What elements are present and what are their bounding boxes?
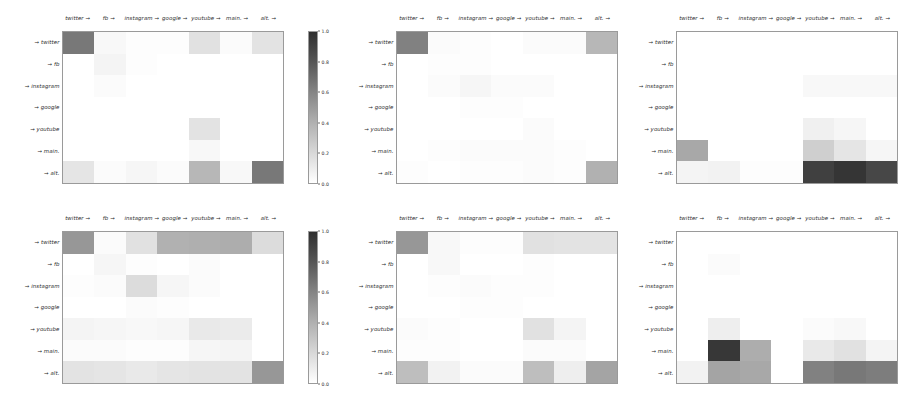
column-label-3: google → <box>159 14 190 23</box>
heatmap-cell <box>157 254 188 276</box>
heatmap-cell <box>771 54 802 76</box>
heatmap-cell <box>834 361 865 383</box>
heatmap-cell <box>523 75 554 97</box>
column-label-5: main. → <box>556 14 587 23</box>
heatmap-cell <box>523 32 554 54</box>
heatmap-cell <box>126 54 157 76</box>
heatmap-cell <box>586 318 617 340</box>
heatmap-cell <box>126 340 157 362</box>
heatmap-cell <box>771 232 802 254</box>
row-label-5: → main. <box>6 140 62 162</box>
heatmap-cell <box>460 318 491 340</box>
heatmap-cell <box>491 75 522 97</box>
heatmap-cell <box>428 318 459 340</box>
column-label-2: instagram → <box>124 14 159 23</box>
heatmap-cell <box>771 118 802 140</box>
heatmap-cell <box>157 97 188 119</box>
heatmap-cell <box>771 254 802 276</box>
column-axis-labels: twitter →fb →instagram →google →youtube … <box>62 14 284 23</box>
row-label-0: → twitter <box>340 231 396 253</box>
heatmap-cell <box>63 75 94 97</box>
heatmap-cell <box>834 232 865 254</box>
heatmap-cell <box>220 161 251 183</box>
heatmap-cell <box>523 297 554 319</box>
heatmap-cell <box>157 32 188 54</box>
heatmap-cell <box>677 32 708 54</box>
row-label-2: → instagram <box>340 75 396 97</box>
column-label-2: instagram → <box>738 214 773 223</box>
heatmap-cell <box>397 361 428 383</box>
heatmap-cell <box>586 97 617 119</box>
row-label-6: → alt. <box>620 362 676 384</box>
heatmap-cell <box>397 297 428 319</box>
row-label-4: → youtube <box>620 118 676 140</box>
heatmap-panel-top-right: twitter →fb →instagram →google →youtube … <box>614 0 911 200</box>
heatmap-cell <box>491 232 522 254</box>
colorbar-tick-4: 0.2 <box>318 351 329 356</box>
heatmap-cell <box>220 232 251 254</box>
heatmap-cell <box>220 32 251 54</box>
heatmap-cell <box>803 297 834 319</box>
heatmap-cell <box>866 318 897 340</box>
heatmap-cell <box>397 140 428 162</box>
heatmap-cell <box>708 232 739 254</box>
heatmap-cell <box>63 118 94 140</box>
heatmap-cell <box>491 275 522 297</box>
column-label-3: google → <box>159 214 190 223</box>
heatmap-cell <box>220 140 251 162</box>
column-label-0: twitter → <box>62 14 93 23</box>
heatmap-cell <box>803 32 834 54</box>
column-label-3: google → <box>493 214 524 223</box>
heatmap-cell <box>397 254 428 276</box>
heatmap-cell <box>126 118 157 140</box>
heatmap-cell <box>803 54 834 76</box>
heatmap-cell <box>523 232 554 254</box>
heatmap-cell <box>554 54 585 76</box>
heatmap-cell <box>428 254 459 276</box>
heatmap-cell <box>554 275 585 297</box>
heatmap-cell <box>220 275 251 297</box>
row-label-3: → google <box>6 97 62 119</box>
heatmap-cell <box>157 275 188 297</box>
heatmap-cell <box>866 54 897 76</box>
heatmap-cell <box>586 161 617 183</box>
heatmap-cell <box>189 97 220 119</box>
heatmap-plot-area <box>62 31 284 184</box>
heatmap-cell <box>189 318 220 340</box>
column-label-0: twitter → <box>676 214 707 223</box>
heatmap-cell <box>63 297 94 319</box>
heatmap-cell <box>428 361 459 383</box>
row-label-2: → instagram <box>6 275 62 297</box>
row-label-6: → alt. <box>340 162 396 184</box>
row-label-6: → alt. <box>340 362 396 384</box>
heatmap-cell <box>189 32 220 54</box>
column-axis-labels: twitter →fb →instagram →google →youtube … <box>676 14 898 23</box>
colorbar-tick-2: 0.6 <box>318 90 329 95</box>
heatmap-cell <box>157 75 188 97</box>
heatmap-cell <box>491 118 522 140</box>
column-label-5: main. → <box>836 214 867 223</box>
heatmap-cell <box>708 118 739 140</box>
heatmap-cell <box>523 318 554 340</box>
row-label-5: → main. <box>620 340 676 362</box>
heatmap-cell <box>189 254 220 276</box>
heatmap-cell <box>252 140 283 162</box>
heatmap-cell <box>740 75 771 97</box>
heatmap-cell <box>803 118 834 140</box>
heatmap-cell <box>126 318 157 340</box>
heatmap-cell <box>803 140 834 162</box>
colorbar-gradient <box>308 231 318 384</box>
heatmap-cell <box>677 161 708 183</box>
heatmap-cell <box>460 140 491 162</box>
heatmap-cell <box>460 75 491 97</box>
heatmap-cell <box>189 340 220 362</box>
column-label-0: twitter → <box>62 214 93 223</box>
heatmap-cell <box>94 275 125 297</box>
heatmap-cell <box>677 361 708 383</box>
heatmap-cell <box>397 161 428 183</box>
heatmap-cell <box>866 140 897 162</box>
heatmap-cell-grid <box>677 32 897 183</box>
heatmap-cell <box>397 75 428 97</box>
heatmap-cell <box>708 254 739 276</box>
heatmap-cell <box>157 232 188 254</box>
